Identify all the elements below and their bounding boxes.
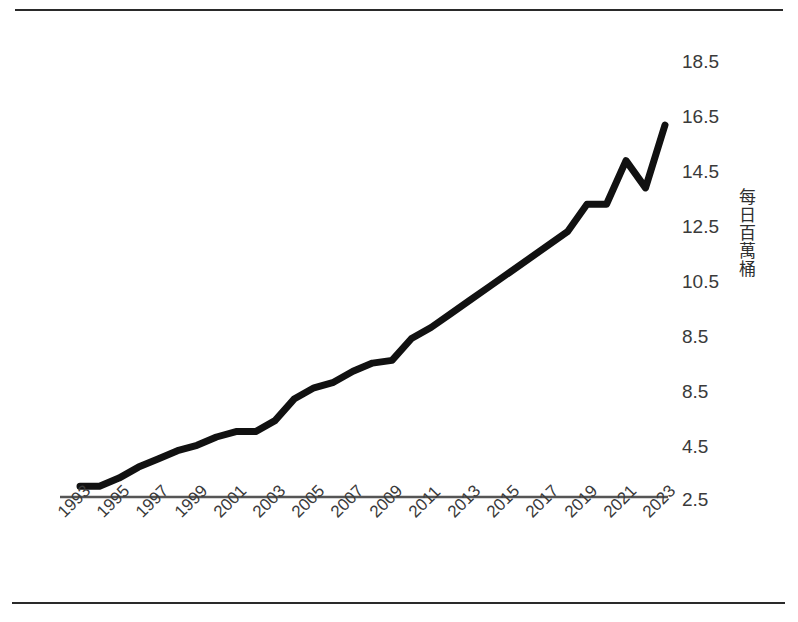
chart-plot-area: 18.516.514.512.510.58.58.54.52.5 每日百萬桶 1… xyxy=(0,0,798,622)
y-tick-label: 4.5 xyxy=(682,437,734,456)
bottom-divider-rule xyxy=(12,602,785,604)
y-tick-label: 2.5 xyxy=(682,490,734,509)
y-tick-label: 16.5 xyxy=(682,107,734,126)
y-tick-label: 8.5 xyxy=(682,382,734,401)
y-tick-label: 12.5 xyxy=(682,217,734,236)
y-tick-label: 10.5 xyxy=(682,272,734,291)
chart-svg xyxy=(0,0,798,622)
y-tick-label: 18.5 xyxy=(682,52,734,71)
y-tick-label: 14.5 xyxy=(682,162,734,181)
y-tick-label: 8.5 xyxy=(682,327,734,346)
y-axis-title: 每日百萬桶 xyxy=(730,188,756,278)
data-series-line xyxy=(80,125,665,486)
